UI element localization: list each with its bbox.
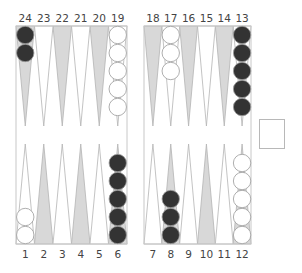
- black-checker[interactable]: [109, 208, 126, 225]
- point-label-22: 22: [53, 12, 71, 24]
- black-checker[interactable]: [109, 154, 126, 171]
- point-label-20: 20: [90, 12, 108, 24]
- point-label-16: 16: [180, 12, 198, 24]
- white-checker[interactable]: [17, 208, 34, 225]
- point-label-15: 15: [197, 12, 215, 24]
- white-checker[interactable]: [109, 80, 126, 97]
- point-label-7: 7: [144, 248, 162, 260]
- black-checker[interactable]: [233, 80, 250, 97]
- backgammon-board: [0, 0, 302, 273]
- black-checker[interactable]: [109, 172, 126, 189]
- point-label-19: 19: [109, 12, 127, 24]
- point-label-9: 9: [180, 248, 198, 260]
- point-label-12: 12: [233, 248, 251, 260]
- black-checker[interactable]: [233, 98, 250, 115]
- point-label-11: 11: [215, 248, 233, 260]
- white-checker[interactable]: [162, 44, 179, 61]
- white-checker[interactable]: [109, 98, 126, 115]
- board-right-half: [144, 26, 251, 244]
- points-layer: [16, 26, 251, 244]
- point-label-13: 13: [233, 12, 251, 24]
- white-checker[interactable]: [233, 172, 250, 189]
- point-label-4: 4: [72, 248, 90, 260]
- white-checker[interactable]: [109, 62, 126, 79]
- black-checker[interactable]: [109, 190, 126, 207]
- point-label-1: 1: [16, 248, 34, 260]
- white-checker[interactable]: [233, 208, 250, 225]
- point-label-14: 14: [215, 12, 233, 24]
- white-checker[interactable]: [162, 26, 179, 43]
- point-label-24: 24: [16, 12, 34, 24]
- black-checker[interactable]: [109, 226, 126, 243]
- white-checker[interactable]: [233, 190, 250, 207]
- point-label-3: 3: [53, 248, 71, 260]
- backgammon-board-area: 242322212019181716151413123456789101112: [0, 0, 302, 273]
- white-checker[interactable]: [109, 44, 126, 61]
- black-checker[interactable]: [233, 44, 250, 61]
- black-checker[interactable]: [233, 62, 250, 79]
- white-checker[interactable]: [233, 154, 250, 171]
- black-checker[interactable]: [17, 26, 34, 43]
- point-label-23: 23: [35, 12, 53, 24]
- black-checker[interactable]: [162, 226, 179, 243]
- white-checker[interactable]: [17, 226, 34, 243]
- black-checker[interactable]: [162, 208, 179, 225]
- board-left-half: [16, 26, 127, 244]
- point-label-2: 2: [35, 248, 53, 260]
- point-label-8: 8: [162, 248, 180, 260]
- white-checker[interactable]: [109, 26, 126, 43]
- point-label-10: 10: [197, 248, 215, 260]
- black-checker[interactable]: [17, 44, 34, 61]
- white-checker[interactable]: [233, 226, 250, 243]
- black-checker[interactable]: [162, 190, 179, 207]
- point-label-17: 17: [162, 12, 180, 24]
- doubling-cube[interactable]: [259, 119, 285, 149]
- point-label-21: 21: [72, 12, 90, 24]
- point-label-18: 18: [144, 12, 162, 24]
- white-checker[interactable]: [162, 62, 179, 79]
- point-label-6: 6: [109, 248, 127, 260]
- point-label-5: 5: [90, 248, 108, 260]
- black-checker[interactable]: [233, 26, 250, 43]
